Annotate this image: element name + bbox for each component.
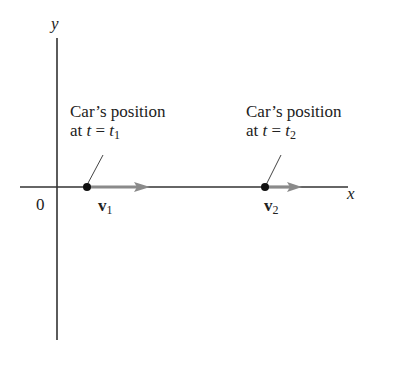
annotation-1: Car’s position at t = t1 (70, 102, 166, 145)
leader-line-2 (266, 155, 281, 185)
annotation-2-line2: at t = t2 (246, 121, 342, 145)
y-axis-label: y (51, 14, 59, 33)
vector-label-1: v1 (98, 196, 113, 220)
velocity-vector-1 (87, 182, 150, 192)
velocity-vector-2 (265, 182, 302, 192)
x-axis-label: x (347, 184, 355, 203)
car-position-point-2 (261, 183, 269, 191)
car-position-point-1 (83, 183, 91, 191)
annotation-2: Car’s position at t = t2 (246, 102, 342, 145)
origin-label: 0 (36, 195, 45, 214)
annotation-1-line2: at t = t1 (70, 121, 166, 145)
leader-line-1 (87, 155, 103, 185)
vector-label-2: v2 (264, 196, 279, 220)
annotation-2-line1: Car’s position (246, 102, 342, 121)
annotation-1-line1: Car’s position (70, 102, 166, 121)
diagram-canvas (0, 0, 394, 370)
